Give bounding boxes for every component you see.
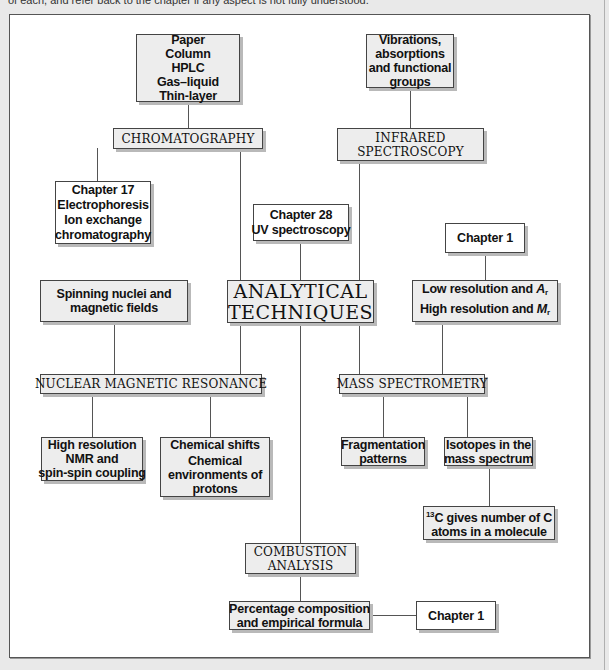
uv-label: UV spectroscopy [251,223,350,238]
type-thin-layer: Thin-layer [159,89,217,103]
connector [97,148,98,181]
chromatography-types-box: Paper Column HPLC Gas–liquid Thin-layer [136,34,240,102]
connector [485,252,486,280]
chromatography-box: CHROMATOGRAPHY [113,128,263,149]
high-resolution-line: High resolution and Mr [420,301,550,321]
basis-line: magnetic fields [70,301,158,315]
chapter1-label: Chapter 1 [457,231,513,245]
center-title-line2: TECHNIQUES [228,302,373,323]
detail-line: Vibrations, [379,33,441,47]
connector [210,394,211,437]
isotopes-line: Isotopes in the [446,438,531,452]
fragmentation-box: Fragmentation patterns [341,437,425,466]
high-res-line: spin-spin coupling [38,466,146,480]
percentage-composition-box: Percentage composition and empirical for… [229,601,370,630]
shifts-line: Chemical shifts [170,438,259,452]
resolution-box: Low resolution and Ar High resolution an… [412,280,558,322]
fragmentation-line: Fragmentation [341,438,425,452]
result-line: and empirical formula [237,616,363,630]
electrophoresis-label: Electrophoresis [57,198,148,213]
ar-symbol: A [536,282,545,296]
high-res-line: NMR and [66,452,119,466]
nmr-box: NUCLEAR MAGNETIC RESONANCE [40,374,262,394]
analytical-techniques-box: ANALYTICAL TECHNIQUES [227,280,374,323]
spectroscopy-label: SPECTROSCOPY [357,145,464,159]
chemical-shifts-box: Chemical shifts Chemical environments of… [160,437,270,497]
caption-text: of each, and refer back to the chapter i… [8,0,369,6]
low-res-text: Low resolution and [422,282,536,296]
type-hplc: HPLC [171,61,204,75]
connector [410,87,411,128]
mr-subscript: r [547,308,550,317]
spinning-nuclei-box: Spinning nuclei and magnetic fields [40,280,188,322]
isotopes-box: Isotopes in the mass spectrum [444,437,533,466]
chapter17-box: Chapter 17 Electrophoresis Ion exchange … [55,181,151,244]
page-edge [604,0,605,670]
high-res-line: High resolution [48,438,137,452]
connector [240,148,241,280]
mass-spec-label: MASS SPECTROMETRY [336,377,487,391]
infrared-label: INFRARED [375,131,445,145]
shifts-line: protons [192,482,237,496]
type-column: Column [165,47,210,61]
chapter17-label: Chapter 17 [72,183,135,198]
connector [359,322,360,374]
low-resolution-line: Low resolution and Ar [422,281,548,301]
infrared-box: INFRARED SPECTROSCOPY [337,128,484,161]
connector [300,241,301,280]
c13-text: C gives number of C [434,511,552,525]
nmr-label: NUCLEAR MAGNETIC RESONANCE [35,377,267,391]
connector [92,394,93,437]
connector [442,322,443,374]
c13-box: 13C gives number of C atoms in a molecul… [423,506,555,540]
type-paper: Paper [171,33,205,47]
analysis-label: ANALYSIS [268,559,334,573]
shifts-line: environments of [168,468,262,482]
detail-line: groups [389,75,430,89]
c13-line1: 13C gives number of C [426,508,552,525]
connector [383,394,384,437]
connector [300,573,301,601]
uv-spectroscopy-box: Chapter 28 UV spectroscopy [253,204,349,241]
combustion-analysis-box: COMBUSTION ANALYSIS [245,543,356,574]
fragmentation-line: patterns [359,452,407,466]
connector [359,160,360,280]
detail-line: absorptions [375,47,444,61]
chromatography-label: CHROMATOGRAPHY [121,132,254,146]
shifts-line: Chemical [188,454,242,468]
chapter1-ms-box: Chapter 1 [445,223,525,253]
connector [467,394,468,437]
connector [370,615,416,616]
connector [300,322,301,543]
ar-subscript: r [545,288,548,297]
ion-exchange-label: Ion exchange [64,213,141,228]
center-title-line1: ANALYTICAL [233,281,367,302]
infrared-detail-box: Vibrations, absorptions and functional g… [366,34,454,88]
combustion-label: COMBUSTION [254,545,348,559]
high-res-nmr-box: High resolution NMR and spin-spin coupli… [41,437,143,481]
mr-symbol: M [537,302,547,316]
chapter1-label: Chapter 1 [428,609,484,623]
detail-line: and functional [369,61,452,75]
type-gas-liquid: Gas–liquid [157,75,219,89]
isotopes-line: mass spectrum [444,452,533,466]
connector [114,322,115,374]
chapter1-combustion-box: Chapter 1 [416,601,496,630]
result-line: Percentage composition [229,602,370,616]
chromatography-sub-label: chromatography [55,228,151,243]
high-res-text: High resolution and [420,302,537,316]
chapter28-label: Chapter 28 [270,208,333,223]
connector [489,465,490,506]
connector [240,322,241,374]
mass-spectrometry-box: MASS SPECTROMETRY [339,374,485,394]
c13-line2: atoms in a molecule [431,525,547,539]
basis-line: Spinning nuclei and [57,287,172,301]
connector [188,101,189,128]
